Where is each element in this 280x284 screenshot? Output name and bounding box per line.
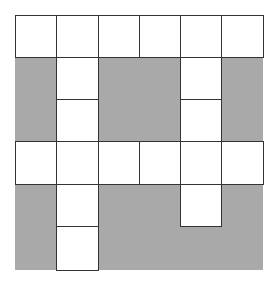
- grid-square: [221, 15, 264, 58]
- grid-square: [15, 141, 57, 185]
- grid-square: [56, 15, 99, 58]
- grid-square: [56, 99, 99, 142]
- grid-square: [56, 57, 99, 100]
- grid-square: [180, 15, 222, 58]
- grid-square: [221, 141, 264, 185]
- grid-square: [180, 57, 222, 100]
- grid-board: [15, 15, 263, 270]
- grid-square: [180, 141, 222, 185]
- shaded-region: [15, 57, 263, 141]
- grid-square: [139, 15, 181, 58]
- grid-square: [56, 141, 99, 185]
- grid-square: [56, 226, 99, 271]
- grid-square: [15, 15, 57, 58]
- shaded-region: [15, 184, 263, 270]
- grid-square: [56, 184, 99, 227]
- grid-square: [180, 184, 222, 227]
- grid-square: [180, 99, 222, 142]
- grid-square: [98, 141, 140, 185]
- grid-square: [98, 15, 140, 58]
- grid-square: [139, 141, 181, 185]
